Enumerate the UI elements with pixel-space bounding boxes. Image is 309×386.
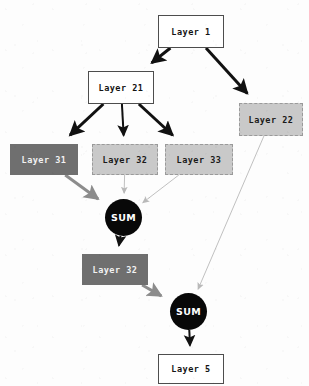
node-label: Layer 31: [22, 155, 67, 165]
node-layer-31[interactable]: Layer 31: [10, 144, 78, 175]
node-layer-32-upper[interactable]: Layer 32: [92, 144, 158, 175]
edge-layer31-to-sum1: [65, 175, 98, 199]
edge-layer1-to-layer22: [206, 48, 247, 93]
node-label: Layer 21: [99, 83, 144, 93]
edge-sum1-to-layer32b: [119, 236, 121, 246]
diagram-canvas: Layer 1 Layer 21 Layer 22 Layer 31 Layer…: [0, 0, 309, 386]
node-layer-33[interactable]: Layer 33: [165, 144, 233, 175]
edge-layer21-to-layer32a: [122, 104, 124, 135]
node-label: Layer 33: [177, 155, 222, 165]
edge-layer1-to-layer21: [152, 48, 171, 63]
node-label: Layer 22: [249, 115, 294, 125]
node-sum-lower[interactable]: SUM: [170, 293, 207, 330]
node-label: Layer 32: [103, 155, 148, 165]
edge-layer21-to-layer33: [139, 104, 173, 135]
node-layer-5[interactable]: Layer 5: [158, 354, 224, 384]
edge-sum2-to-layer5: [189, 330, 190, 345]
node-layer-21[interactable]: Layer 21: [88, 71, 154, 104]
node-label: Layer 32: [93, 265, 138, 275]
node-layer-32-lower[interactable]: Layer 32: [82, 254, 148, 285]
node-label: SUM: [111, 212, 136, 223]
edge-layer: [0, 0, 309, 386]
edge-layer21-to-layer31: [70, 104, 103, 135]
node-sum-upper[interactable]: SUM: [105, 199, 142, 236]
edge-layer33-to-sum1: [143, 175, 179, 203]
node-layer-22[interactable]: Layer 22: [239, 103, 303, 136]
node-layer-1[interactable]: Layer 1: [158, 15, 224, 48]
edge-layer32b-to-sum2: [142, 285, 161, 296]
node-label: Layer 5: [171, 364, 210, 374]
node-label: SUM: [176, 306, 201, 317]
node-label: Layer 1: [171, 27, 210, 37]
